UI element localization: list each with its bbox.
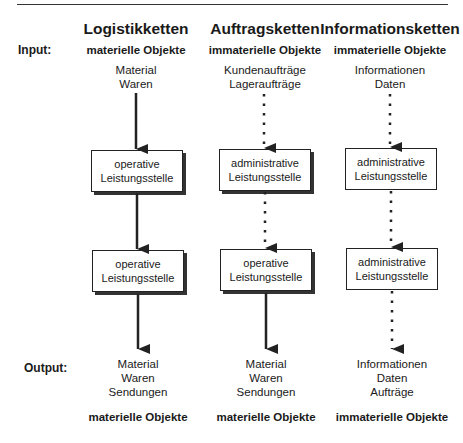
flow-arrows — [0, 0, 463, 443]
